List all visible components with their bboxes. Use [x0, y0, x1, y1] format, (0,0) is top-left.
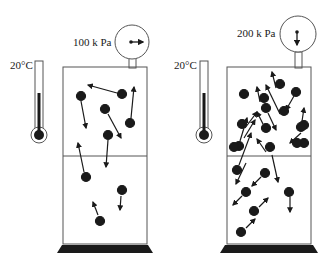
gas-pressure-diagram: 20°C 100 k Pa — [0, 0, 329, 265]
right-apparatus: 20°C 200 k Pa — [174, 16, 318, 253]
left-apparatus: 20°C 100 k Pa — [10, 25, 153, 253]
right-thermometer-icon — [196, 61, 212, 143]
right-temperature-label: 20°C — [174, 59, 197, 71]
left-container-base — [57, 245, 153, 253]
left-pressure-label: 100 k Pa — [73, 36, 112, 48]
right-particles — [230, 72, 309, 237]
left-particles — [77, 85, 135, 226]
right-pressure-gauge-icon — [280, 16, 316, 68]
left-temperature-label: 20°C — [10, 59, 33, 71]
right-pressure-label: 200 k Pa — [237, 27, 276, 39]
left-pressure-gauge-icon — [115, 25, 149, 68]
left-thermometer-icon — [31, 61, 47, 143]
right-container-base — [220, 245, 318, 253]
